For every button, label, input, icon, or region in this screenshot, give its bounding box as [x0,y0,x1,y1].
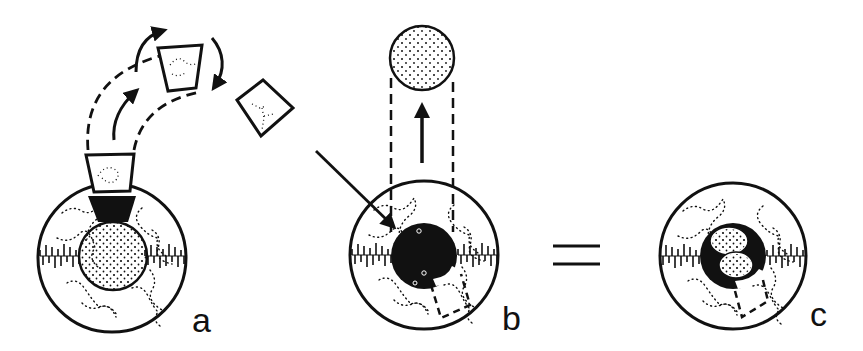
trapezoid-piece-rotated [237,80,293,136]
panel-b: b [316,26,521,337]
arrow-diagonal [316,151,392,225]
lifted-dotted-circle [390,26,454,90]
inner-dotted-circle-a [79,222,147,290]
dashed-arc-right [134,92,200,150]
panel-label-c: c [810,295,827,333]
panel-a: a [38,31,293,339]
trapezoid-piece-lifted [158,45,202,91]
arrow-curve-right [212,38,222,86]
panel-c: c [660,183,827,333]
trapezoid-piece-origin [86,154,134,192]
equals-sign [553,246,600,264]
arrow-up-arc [114,92,135,140]
diagram-canvas: a b [0,0,863,351]
panel-label-b: b [502,299,521,337]
panel-label-a: a [192,301,211,339]
